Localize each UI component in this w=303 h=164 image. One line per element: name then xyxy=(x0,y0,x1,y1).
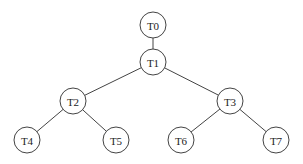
node-t4: T4 xyxy=(14,127,40,153)
node-t3: T3 xyxy=(217,88,243,114)
node-t2: T2 xyxy=(60,88,86,114)
node-label: T5 xyxy=(110,135,123,147)
node-label: T4 xyxy=(21,135,34,147)
node-label: T7 xyxy=(270,135,283,147)
node-t7: T7 xyxy=(263,127,289,153)
node-t6: T6 xyxy=(168,127,194,153)
node-label: T1 xyxy=(147,57,159,69)
node-t1: T1 xyxy=(140,49,166,75)
edges xyxy=(27,25,276,140)
tree-diagram: T0T1T2T3T4T5T6T7 xyxy=(0,0,303,164)
node-label: T0 xyxy=(147,20,160,32)
node-t0: T0 xyxy=(140,12,166,38)
node-label: T6 xyxy=(175,135,188,147)
nodes: T0T1T2T3T4T5T6T7 xyxy=(14,12,289,153)
node-label: T2 xyxy=(67,96,79,108)
node-t5: T5 xyxy=(103,127,129,153)
node-label: T3 xyxy=(224,96,237,108)
